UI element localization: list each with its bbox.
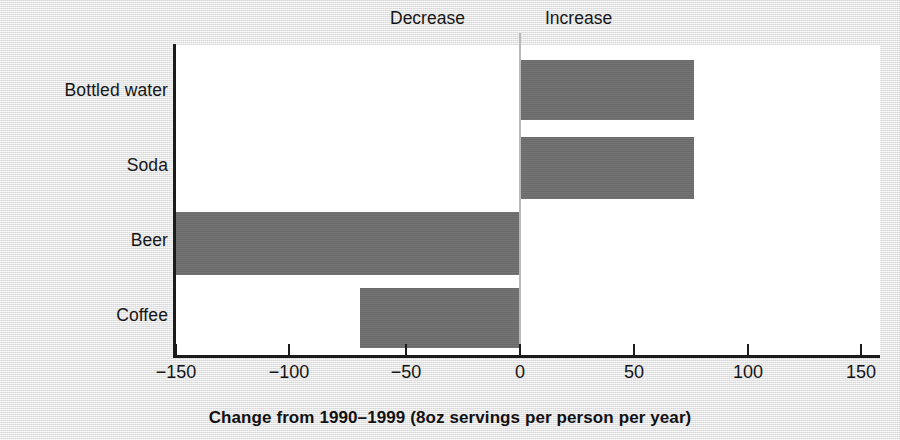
category-label-soda: Soda [127, 155, 168, 176]
x-tick-label: 100 [733, 362, 763, 383]
x-axis-title: Change from 1990–1999 (8oz servings per … [0, 408, 900, 428]
decrease-annotation: Decrease [390, 8, 465, 29]
increase-annotation: Increase [545, 8, 612, 29]
x-tick-label: −50 [391, 362, 422, 383]
x-tick-label: −100 [269, 362, 310, 383]
bar-bottled-water [521, 60, 694, 120]
bar-soda [521, 137, 694, 199]
bar-coffee [360, 288, 520, 348]
x-tick-mark [175, 344, 177, 356]
bar-beer [176, 212, 520, 275]
x-tick-mark [633, 344, 635, 356]
category-label-coffee: Coffee [116, 305, 168, 326]
x-axis-line [173, 355, 880, 358]
zero-reference-line [519, 33, 521, 358]
x-tick-label: 50 [624, 362, 644, 383]
x-tick-mark [288, 344, 290, 356]
x-tick-mark [405, 344, 407, 356]
x-tick-mark [519, 344, 521, 356]
y-axis-line [173, 44, 176, 357]
x-tick-mark [747, 344, 749, 356]
category-label-beer: Beer [131, 230, 168, 251]
x-tick-label: 150 [846, 362, 876, 383]
x-tick-mark [860, 344, 862, 356]
chart-figure: Decrease Increase Bottled water Soda Bee… [0, 0, 900, 440]
category-label-bottled-water: Bottled water [65, 80, 168, 101]
x-tick-label: 0 [515, 362, 525, 383]
x-tick-label: −150 [156, 362, 197, 383]
